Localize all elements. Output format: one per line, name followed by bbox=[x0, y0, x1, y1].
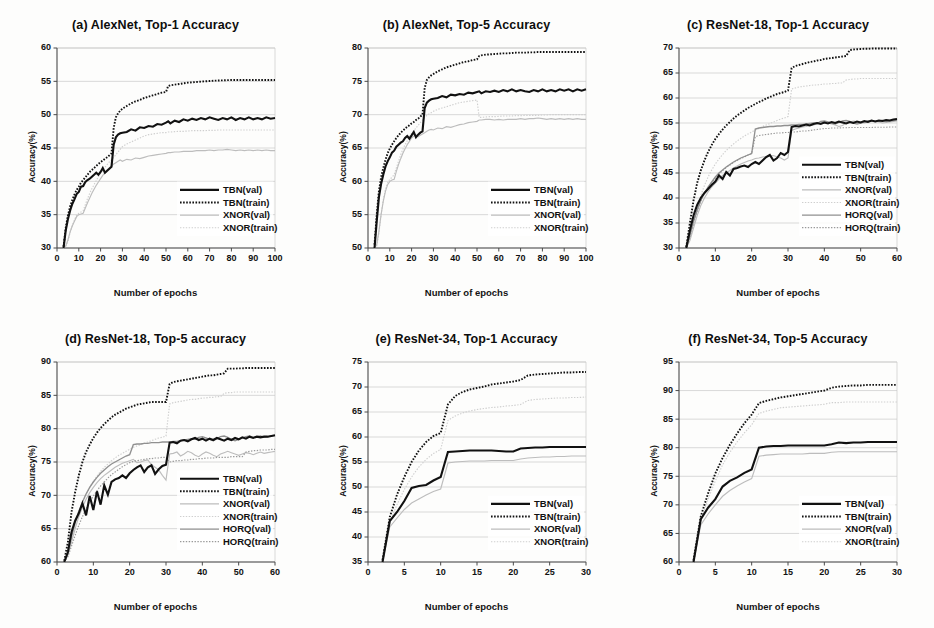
legend: TBN(val)TBN(train)XNOR(val)XNOR(train) bbox=[177, 182, 277, 236]
svg-text:70: 70 bbox=[663, 42, 673, 52]
legend-label: HORQ(train) bbox=[845, 222, 900, 233]
legend-label: XNOR(val) bbox=[845, 523, 892, 534]
svg-text:10: 10 bbox=[88, 567, 98, 577]
svg-text:100: 100 bbox=[267, 253, 282, 263]
legend-label: XNOR(train) bbox=[845, 536, 899, 547]
chart-b: 505560657075800102030405060708090100TBN(… bbox=[368, 48, 626, 284]
svg-text:25: 25 bbox=[545, 567, 555, 577]
panel-d-xlabel: Number of epochs bbox=[0, 601, 311, 612]
panel-b-ylabel: Accuracy(%) bbox=[338, 131, 348, 183]
svg-text:0: 0 bbox=[676, 253, 681, 263]
svg-text:15: 15 bbox=[783, 567, 793, 577]
svg-text:50: 50 bbox=[161, 253, 171, 263]
panel-c-xlabel: Number of epochs bbox=[622, 287, 934, 298]
svg-text:70: 70 bbox=[516, 253, 526, 263]
svg-text:50: 50 bbox=[352, 242, 362, 252]
svg-text:55: 55 bbox=[663, 117, 673, 127]
panel-b: (b) AlexNet, Top-5 Accuracy Accuracy(%) … bbox=[311, 0, 622, 314]
legend-label: XNOR(train) bbox=[534, 222, 588, 233]
legend-label: XNOR(train) bbox=[223, 511, 277, 522]
svg-text:60: 60 bbox=[663, 556, 673, 566]
legend-label: XNOR(val) bbox=[534, 209, 581, 220]
panel-f-title: (f) ResNet-34, Top-5 Accuracy bbox=[622, 332, 934, 346]
svg-text:30: 30 bbox=[783, 253, 793, 263]
svg-text:70: 70 bbox=[205, 253, 215, 263]
svg-text:30: 30 bbox=[663, 242, 673, 252]
legend-label: TBN(val) bbox=[534, 498, 573, 509]
svg-text:60: 60 bbox=[494, 253, 504, 263]
panel-a: (a) AlexNet, Top-1 Accuracy Accuracy(%) … bbox=[0, 0, 311, 314]
svg-text:0: 0 bbox=[54, 567, 59, 577]
svg-text:50: 50 bbox=[856, 253, 866, 263]
svg-text:80: 80 bbox=[537, 253, 547, 263]
legend: TBN(val)TBN(train)XNOR(val)XNOR(train)HO… bbox=[177, 470, 278, 550]
svg-text:50: 50 bbox=[663, 142, 673, 152]
svg-text:5: 5 bbox=[713, 567, 718, 577]
svg-text:40: 40 bbox=[139, 253, 149, 263]
legend-label: TBN(val) bbox=[223, 184, 262, 195]
svg-text:55: 55 bbox=[352, 209, 362, 219]
svg-text:45: 45 bbox=[663, 167, 673, 177]
svg-text:35: 35 bbox=[352, 556, 362, 566]
svg-text:70: 70 bbox=[41, 490, 51, 500]
svg-text:60: 60 bbox=[352, 431, 362, 441]
svg-text:20: 20 bbox=[747, 253, 757, 263]
panel-f-ylabel: Accuracy(%) bbox=[649, 445, 659, 497]
chart-f: 6065707580859095051015202530TBN(val)TBN(… bbox=[679, 362, 934, 598]
svg-text:95: 95 bbox=[663, 356, 673, 366]
legend-label: HORQ(val) bbox=[223, 523, 271, 534]
svg-text:90: 90 bbox=[41, 356, 51, 366]
svg-text:70: 70 bbox=[663, 499, 673, 509]
svg-text:50: 50 bbox=[234, 567, 244, 577]
svg-text:25: 25 bbox=[856, 567, 866, 577]
svg-text:65: 65 bbox=[663, 67, 673, 77]
svg-text:40: 40 bbox=[663, 192, 673, 202]
svg-text:30: 30 bbox=[117, 253, 127, 263]
chart-d: 606570758085900102030405060TBN(val)TBN(t… bbox=[57, 362, 315, 598]
panel-f-xlabel: Number of epochs bbox=[622, 601, 934, 612]
svg-text:20: 20 bbox=[96, 253, 106, 263]
panel-e-title: (e) ResNet-34, Top-1 Accuracy bbox=[311, 332, 622, 346]
legend-label: HORQ(train) bbox=[223, 536, 278, 547]
svg-text:30: 30 bbox=[161, 567, 171, 577]
svg-text:50: 50 bbox=[472, 253, 482, 263]
svg-text:40: 40 bbox=[450, 253, 460, 263]
svg-text:60: 60 bbox=[892, 253, 902, 263]
svg-text:45: 45 bbox=[41, 142, 51, 152]
svg-text:20: 20 bbox=[125, 567, 135, 577]
svg-text:0: 0 bbox=[676, 567, 681, 577]
svg-text:35: 35 bbox=[663, 217, 673, 227]
svg-text:40: 40 bbox=[352, 531, 362, 541]
svg-text:80: 80 bbox=[226, 253, 236, 263]
legend-label: XNOR(train) bbox=[223, 222, 277, 233]
svg-text:60: 60 bbox=[41, 556, 51, 566]
svg-text:20: 20 bbox=[407, 253, 417, 263]
svg-text:75: 75 bbox=[352, 76, 362, 86]
legend-label: TBN(train) bbox=[223, 486, 269, 497]
panel-f: (f) ResNet-34, Top-5 Accuracy Accuracy(%… bbox=[622, 314, 934, 628]
panel-c-title: (c) ResNet-18, Top-1 Accuracy bbox=[622, 18, 934, 32]
legend-label: TBN(train) bbox=[534, 197, 580, 208]
svg-text:0: 0 bbox=[365, 253, 370, 263]
svg-text:80: 80 bbox=[663, 442, 673, 452]
svg-text:40: 40 bbox=[41, 176, 51, 186]
panel-e: (e) ResNet-34, Top-1 Accuracy Accuracy(%… bbox=[311, 314, 622, 628]
svg-text:70: 70 bbox=[352, 381, 362, 391]
panel-b-plot: 505560657075800102030405060708090100TBN(… bbox=[368, 48, 626, 284]
svg-text:75: 75 bbox=[41, 456, 51, 466]
figure-grid: (a) AlexNet, Top-1 Accuracy Accuracy(%) … bbox=[0, 0, 934, 628]
legend-label: XNOR(val) bbox=[223, 209, 270, 220]
legend-label: XNOR(train) bbox=[845, 197, 899, 208]
legend: TBN(val)TBN(train)XNOR(val)XNOR(train)HO… bbox=[799, 156, 900, 236]
svg-text:60: 60 bbox=[183, 253, 193, 263]
panel-f-plot: 6065707580859095051015202530TBN(val)TBN(… bbox=[679, 362, 934, 598]
panel-a-title: (a) AlexNet, Top-1 Accuracy bbox=[0, 18, 311, 32]
chart-c: 3035404550556065700102030405060TBN(val)T… bbox=[679, 48, 934, 284]
panel-e-ylabel: Accuracy(%) bbox=[338, 445, 348, 497]
legend-label: TBN(val) bbox=[845, 159, 884, 170]
panel-c: (c) ResNet-18, Top-1 Accuracy Accuracy(%… bbox=[622, 0, 934, 314]
svg-text:60: 60 bbox=[663, 92, 673, 102]
panel-b-title: (b) AlexNet, Top-5 Accuracy bbox=[311, 18, 622, 32]
panel-b-xlabel: Number of epochs bbox=[311, 287, 622, 298]
legend-label: TBN(train) bbox=[845, 172, 891, 183]
